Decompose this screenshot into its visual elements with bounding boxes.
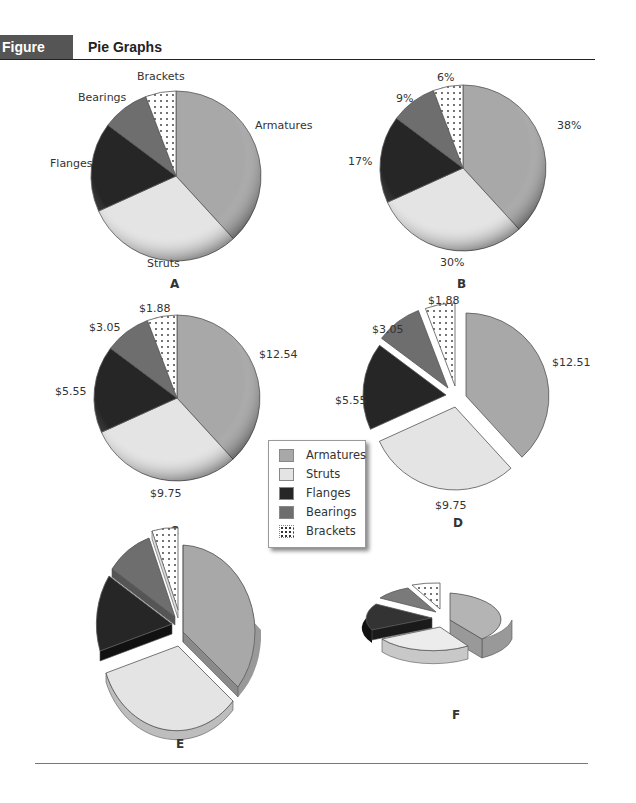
legend-label: Bearings [306, 505, 357, 519]
legend-item-bearings: Bearings [279, 503, 357, 521]
label-d-struts: $9.75 [435, 499, 467, 512]
legend-label: Armatures [306, 448, 366, 462]
chart-legend: Armatures Struts Flanges Bearings Bracke… [268, 440, 366, 548]
label-b-brackets: 6% [437, 71, 454, 84]
label-b-bearings: 9% [396, 92, 413, 105]
caption-b: B [457, 277, 466, 291]
label-a-struts: Struts [147, 257, 180, 270]
label-c-bearings: $3.05 [89, 321, 121, 334]
label-b-struts: 30% [440, 256, 464, 269]
pie-chart-c [94, 315, 260, 481]
caption-a: A [170, 277, 180, 291]
legend-label: Brackets [306, 524, 356, 538]
legend-item-brackets: Brackets [279, 522, 356, 540]
legend-label: Struts [306, 467, 340, 481]
caption-e: E [176, 737, 184, 751]
legend-swatch [279, 468, 294, 481]
label-a-flanges: Flanges [50, 157, 93, 170]
label-d-armatures: $12.51 [552, 356, 591, 369]
label-d-flanges: $5.55 [335, 394, 367, 407]
caption-f: F [452, 708, 460, 722]
legend-item-struts: Struts [279, 465, 340, 483]
legend-label: Flanges [306, 486, 351, 500]
pie-chart-e [96, 528, 261, 740]
caption-d: D [453, 516, 463, 530]
label-b-flanges: 17% [348, 155, 372, 168]
label-c-armatures: $12.54 [259, 348, 298, 361]
legend-swatch [279, 506, 294, 519]
label-d-brackets: $1.88 [428, 294, 460, 307]
legend-swatch [279, 449, 294, 462]
label-a-bearings: Bearings [78, 91, 127, 104]
label-c-brackets: $1.88 [139, 302, 171, 315]
legend-swatch [279, 525, 294, 538]
pie-chart-a [91, 91, 261, 261]
label-d-bearings: $3.05 [372, 323, 404, 336]
label-b-armatures: 38% [557, 119, 581, 132]
label-c-struts: $9.75 [150, 487, 182, 500]
label-a-armatures: Armatures [255, 119, 313, 132]
pie-chart-f [362, 583, 512, 664]
pie-chart-b [380, 85, 546, 251]
legend-swatch [279, 487, 294, 500]
bottom-rule [35, 763, 588, 764]
label-a-brackets: Brackets [137, 70, 185, 83]
label-c-flanges: $5.55 [55, 385, 87, 398]
pie-graphs-canvas: Brackets Bearings Armatures Flanges Stru… [0, 0, 636, 803]
legend-item-flanges: Flanges [279, 484, 351, 502]
legend-item-armatures: Armatures [279, 446, 366, 464]
